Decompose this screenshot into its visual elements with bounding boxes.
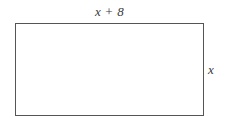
rectangle-height-label: x (208, 60, 224, 80)
rectangle-width-label: x + 8 (15, 3, 204, 21)
rectangle-shape (15, 23, 204, 116)
figure-canvas: x + 8 x (0, 0, 226, 124)
